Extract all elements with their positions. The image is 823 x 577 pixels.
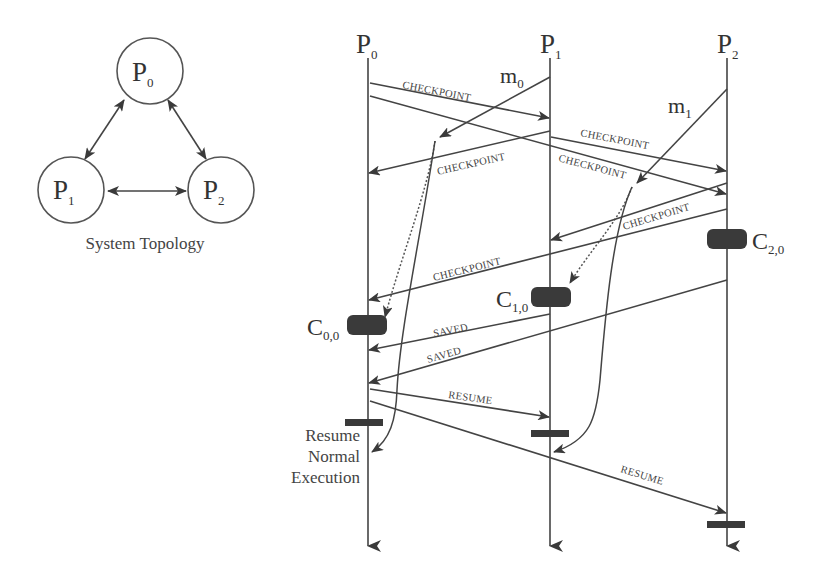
resume-bar-p1 [531, 430, 569, 437]
msg-saved-p1-p0-label: SAVED [432, 321, 469, 339]
msg-checkpoint-p1-p2-label: CHECKPOINT [580, 127, 651, 151]
checkpoint-label-c00: C0,0 [307, 314, 339, 343]
process-header-p0: P0 [356, 29, 378, 62]
topology-node-p1 [38, 157, 104, 223]
topology-node-p2 [188, 157, 254, 223]
topology-caption: System Topology [86, 234, 205, 253]
message-m1-label: m1 [668, 93, 692, 121]
resume-bar-p0 [345, 419, 383, 426]
msg-resume-p0-p1-label: RESUME [448, 389, 493, 406]
message-m0-label: m0 [500, 63, 524, 91]
system-topology: P0 P1 P2 System Topology [38, 38, 254, 253]
topology-node-p0 [117, 38, 183, 104]
checkpoint-block-c20 [707, 229, 747, 249]
checkpoint-block-c00 [347, 315, 387, 335]
msg-checkpoint-p2-p0 [369, 209, 727, 300]
msg-checkpoint-p0-p1-label: CHECKPOINT [402, 79, 473, 103]
process-header-p1: P1 [540, 29, 562, 62]
checkpoint-label-c20: C2,0 [752, 228, 784, 257]
resume-note-line2: Normal [308, 447, 360, 466]
checkpoint-protocol-diagram: P0 P1 P2 System Topology P0 P1 P2 m0 m1 … [0, 0, 823, 577]
checkpoint-block-c10 [531, 287, 571, 307]
process-header-p2: P2 [717, 29, 739, 62]
topology-link-p0-p2 [168, 100, 206, 159]
checkpoint-label-c10: C1,0 [496, 286, 528, 315]
resume-note-line1: Resume [305, 426, 360, 445]
topology-link-p0-p1 [85, 100, 124, 159]
msg-resume-p0-p2 [370, 401, 726, 513]
msg-resume-p0-p2-label: RESUME [619, 463, 665, 486]
sequence-diagram: P0 P1 P2 m0 m1 CHECKPOINT CHECKPOINT CHE… [291, 29, 784, 546]
resume-bar-p2 [707, 521, 745, 528]
resume-note-line3: Execution [291, 468, 360, 487]
